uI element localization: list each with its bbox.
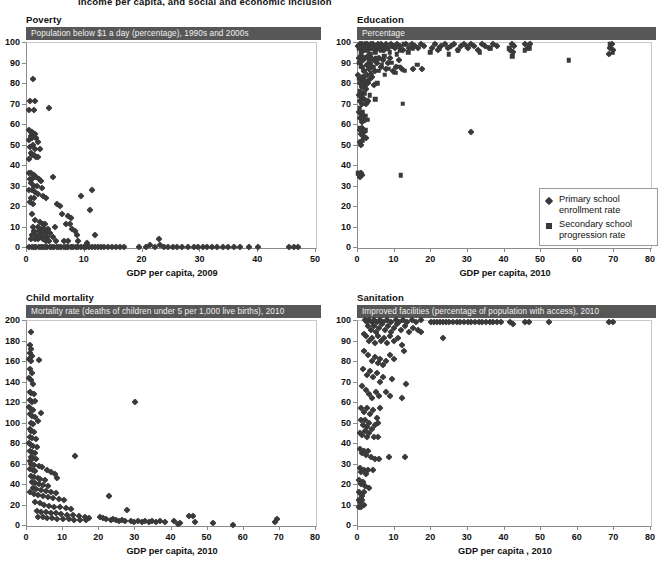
x-tick <box>394 248 395 252</box>
y-tick <box>353 186 357 187</box>
data-point <box>366 79 371 84</box>
data-point <box>401 101 406 106</box>
x-tick-label: 40 <box>498 254 508 264</box>
x-tick-label: 80 <box>645 532 655 542</box>
y-tick <box>353 361 357 362</box>
x-tick-label: 0 <box>23 254 28 264</box>
y-tick-label: 40 <box>0 160 20 170</box>
y-tick <box>22 124 26 125</box>
x-tick-label: 70 <box>274 532 284 542</box>
y-tick-label: 30 <box>331 181 351 191</box>
y-tick <box>353 382 357 383</box>
y-tick-label: 100 <box>0 418 20 428</box>
axis-title-child-mortality-x: GDP per capita, 2010 <box>126 546 217 556</box>
y-tick <box>353 227 357 228</box>
x-tick <box>142 248 143 252</box>
x-tick <box>394 526 395 530</box>
y-tick <box>353 464 357 465</box>
y-tick <box>353 423 357 424</box>
data-point <box>398 48 403 53</box>
y-tick-label: 60 <box>331 397 351 407</box>
x-tick-label: 80 <box>645 254 655 264</box>
x-tick <box>504 526 505 530</box>
y-tick-label: 10 <box>331 500 351 510</box>
x-tick-label: 50 <box>202 532 212 542</box>
x-tick <box>577 526 578 530</box>
x-tick <box>577 248 578 252</box>
y-tick-label: 80 <box>0 438 20 448</box>
x-tick <box>98 526 99 530</box>
data-point <box>361 138 366 143</box>
x-tick-label: 50 <box>535 254 545 264</box>
data-point <box>362 68 367 73</box>
y-tick <box>22 341 26 342</box>
y-tick-label: 0 <box>331 520 351 530</box>
data-point <box>366 118 371 123</box>
data-point <box>366 58 371 63</box>
x-tick <box>430 248 431 252</box>
data-point <box>382 54 387 59</box>
y-tick <box>353 443 357 444</box>
page-intro-text: income per capita, and social and econom… <box>78 0 498 6</box>
data-point <box>446 52 451 57</box>
y-tick <box>22 63 26 64</box>
y-tick-label: 20 <box>0 500 20 510</box>
panel-title-poverty: Poverty <box>26 14 330 25</box>
axis-title-poverty-x: GDP per capita, 2009 <box>126 268 217 278</box>
y-tick <box>22 186 26 187</box>
plot-area-sanitation: 010203040506070809010001020304050607080 … <box>331 318 661 554</box>
legend-label-secondary: Secondary school progression rate <box>559 219 632 240</box>
data-point <box>375 81 380 86</box>
diamond-icon <box>545 194 556 207</box>
panel-header-education: Percentage <box>357 27 656 40</box>
data-point <box>373 97 378 102</box>
y-tick-label: 70 <box>0 99 20 109</box>
y-tick-label: 180 <box>0 336 20 346</box>
x-tick <box>171 526 172 530</box>
y-tick-label: 10 <box>331 222 351 232</box>
x-tick-label: 0 <box>354 254 359 264</box>
y-tick-label: 50 <box>331 418 351 428</box>
square-icon <box>545 219 556 232</box>
x-tick <box>540 526 541 530</box>
y-tick <box>22 42 26 43</box>
y-tick-label: 80 <box>0 78 20 88</box>
x-tick <box>613 248 614 252</box>
x-tick <box>315 526 316 530</box>
data-point <box>358 142 363 147</box>
y-tick-label: 40 <box>0 479 20 489</box>
data-point <box>356 171 361 176</box>
y-tick <box>22 402 26 403</box>
x-tick-label: 30 <box>462 254 472 264</box>
data-point <box>245 243 252 250</box>
x-tick <box>315 248 316 252</box>
data-point <box>428 50 433 55</box>
y-tick-label: 80 <box>331 78 351 88</box>
data-point <box>374 56 379 61</box>
x-tick <box>467 248 468 252</box>
x-tick-label: 10 <box>79 254 89 264</box>
y-tick <box>353 206 357 207</box>
data-point <box>402 42 407 47</box>
y-tick-label: 70 <box>331 377 351 387</box>
data-point <box>368 52 373 57</box>
x-tick <box>207 526 208 530</box>
y-tick-label: 100 <box>0 37 20 47</box>
y-tick-label: 140 <box>0 377 20 387</box>
data-point <box>437 46 442 51</box>
y-tick <box>353 165 357 166</box>
data-point <box>380 62 385 67</box>
x-tick-label: 40 <box>252 254 262 264</box>
y-tick-label: 60 <box>0 119 20 129</box>
chart-legend: Primary school enrollment rate Secondary… <box>539 188 658 246</box>
y-tick-label: 0 <box>331 242 351 252</box>
y-tick <box>22 145 26 146</box>
x-tick-label: 10 <box>389 254 399 264</box>
plot-area-poverty: 010203040506070809010001020304050 GDP pe… <box>0 40 330 276</box>
data-point <box>455 48 460 53</box>
legend-item-secondary: Secondary school progression rate <box>545 219 650 240</box>
x-tick <box>467 526 468 530</box>
y-tick <box>22 382 26 383</box>
y-tick-label: 20 <box>331 201 351 211</box>
panel-education: Education Percentage 0102030405060708090… <box>331 14 661 276</box>
